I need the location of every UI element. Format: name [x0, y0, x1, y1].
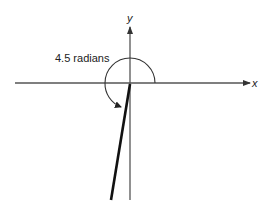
y-axis-label: y: [126, 12, 134, 24]
x-axis-label: x: [251, 77, 258, 89]
diagram-canvas: 4.5 radians x y: [0, 0, 267, 213]
terminal-ray: [111, 84, 130, 200]
angle-label: 4.5 radians: [55, 52, 110, 64]
